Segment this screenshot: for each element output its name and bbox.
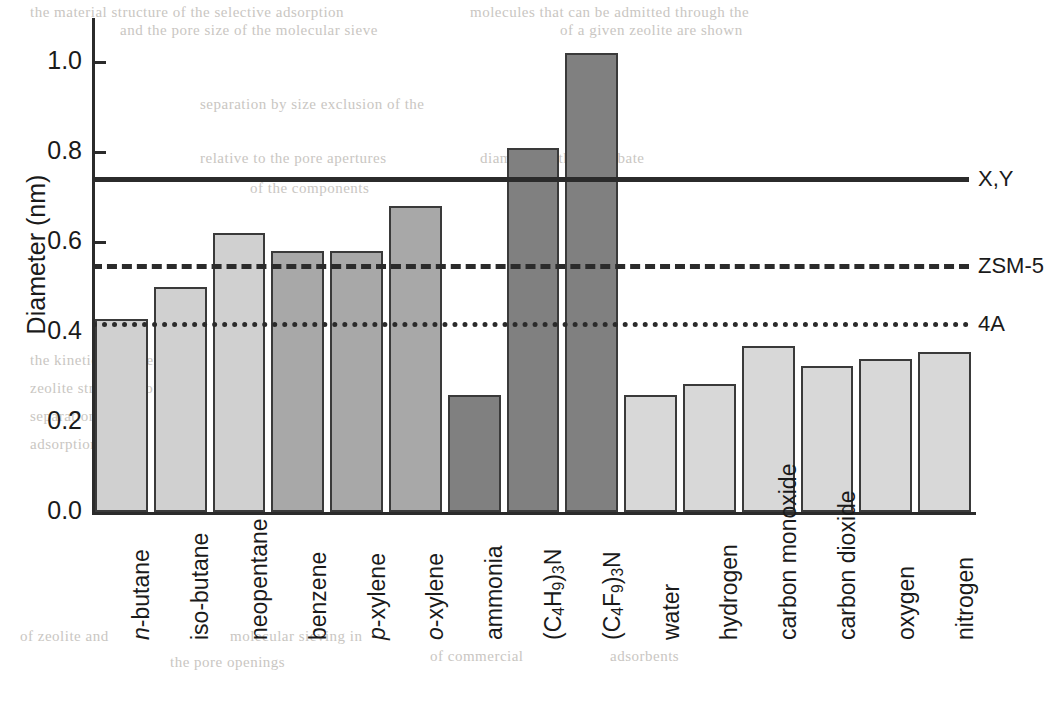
bar — [389, 206, 442, 512]
page-bleed-text: of commercial — [430, 648, 524, 665]
x-axis-label: ammonia — [483, 545, 506, 640]
bar — [330, 251, 383, 512]
y-axis-tick — [95, 151, 106, 154]
x-axis-label: carbon monoxide — [777, 464, 800, 640]
bar — [154, 287, 207, 512]
bar — [448, 395, 501, 512]
x-axis-label: hydrogen — [718, 544, 741, 640]
page-bleed-text: separation by size exclusion of the — [200, 96, 425, 113]
page-bleed-text: the pore openings — [170, 654, 285, 671]
y-axis-tick-label: 0.8 — [18, 138, 82, 163]
x-axis-label: oxygen — [895, 566, 918, 640]
page-bleed-text: adsorption — [30, 436, 98, 453]
x-axis-label: (C4F9)3N — [601, 551, 626, 640]
reference-line-label: 4A — [978, 311, 1005, 337]
bar — [271, 251, 324, 512]
page-bleed-text: and the pore size of the molecular sieve — [120, 22, 378, 39]
page-bleed-text: adsorbents — [610, 648, 679, 665]
reference-line-label: ZSM-5 — [978, 253, 1044, 279]
bar — [859, 359, 912, 512]
bar — [624, 395, 677, 512]
y-axis-tick — [95, 61, 106, 64]
page-bleed-text: diameter of the adsorbate — [480, 150, 645, 167]
reference-line-4a — [92, 322, 969, 327]
x-axis-label: nitrogen — [954, 557, 977, 640]
reference-line-x-y — [92, 177, 969, 182]
x-axis-label: water — [660, 584, 683, 640]
y-axis-tick-label: 0.6 — [18, 228, 82, 253]
bar — [565, 53, 618, 512]
x-axis-label: n-butane — [130, 549, 153, 640]
page-bleed-text: relative to the pore apertures — [200, 150, 387, 167]
x-axis-label: (C4H9)3N — [542, 549, 567, 640]
y-axis-tick-label: 0.0 — [18, 498, 82, 523]
reference-line-label: X,Y — [978, 166, 1013, 192]
y-axis-tick — [95, 241, 106, 244]
y-axis-tick-label: 0.2 — [18, 408, 82, 433]
reference-line-zsm-5 — [92, 264, 969, 269]
y-axis-tick-label: 0.4 — [18, 318, 82, 343]
bar — [507, 148, 560, 513]
bar — [918, 352, 971, 512]
page-bleed-text: molecules that can be admitted through t… — [470, 4, 749, 21]
bar — [213, 233, 266, 512]
x-axis-label: o-xylene — [424, 553, 447, 640]
x-axis-label: benzene — [307, 552, 330, 640]
x-axis-label: neopentane — [248, 518, 271, 640]
bar — [95, 319, 148, 513]
x-axis-label: iso-butane — [189, 533, 212, 640]
x-axis-label: carbon dioxide — [836, 490, 859, 640]
page-bleed-text: of the components — [250, 180, 369, 197]
bar — [683, 384, 736, 512]
page-bleed-text: the material structure of the selective … — [30, 4, 344, 21]
x-axis-label: p-xylene — [366, 553, 389, 640]
page-bleed-text: of a given zeolite are shown — [560, 22, 743, 39]
y-axis-tick-label: 1.0 — [18, 48, 82, 73]
page-bleed-text: of zeolite and — [20, 628, 109, 645]
